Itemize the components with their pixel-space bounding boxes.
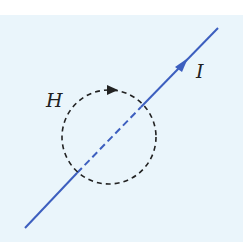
diagram-frame: H I (0, 0, 243, 242)
ampere-law-diagram: H I (0, 0, 243, 242)
wire-lower (25, 173, 77, 228)
wire-hidden-segment (77, 107, 141, 173)
field-arrow-icon (107, 85, 118, 95)
label-h: H (45, 89, 63, 111)
field-loop (62, 90, 156, 184)
label-i: I (195, 60, 204, 82)
